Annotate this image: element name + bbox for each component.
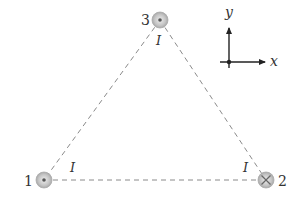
triangle-wires-diagram: 3 I 1 I 2 I y x	[0, 0, 306, 204]
x-axis-label: x	[270, 53, 278, 69]
wire-2-label: 2	[278, 173, 287, 189]
wire-1: 1 I	[24, 160, 76, 189]
dot-out-of-page-icon	[42, 178, 46, 182]
wire-2-current-label: I	[242, 160, 249, 175]
wire-3-label: 3	[141, 12, 150, 28]
wire-1-label: 1	[24, 173, 33, 189]
edge-3-1	[44, 20, 160, 180]
y-axis-label: y	[224, 4, 234, 20]
wire-2: 2 I	[242, 160, 287, 189]
wire-3: 3 I	[141, 12, 168, 48]
wire-1-current-label: I	[69, 160, 76, 175]
coordinate-axes: y x	[220, 4, 278, 69]
dot-out-of-page-icon	[158, 18, 162, 22]
triangle-edges	[44, 20, 266, 180]
edge-3-2	[160, 20, 266, 180]
origin-dot-icon	[227, 60, 231, 64]
wire-3-current-label: I	[155, 33, 162, 48]
